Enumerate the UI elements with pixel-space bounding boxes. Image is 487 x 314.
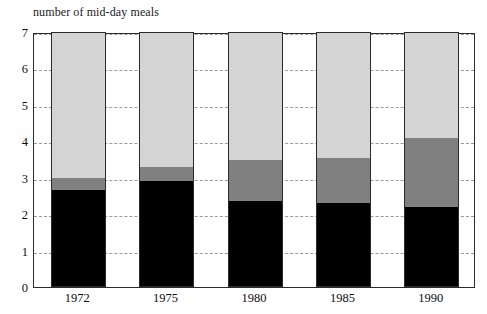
x-tick-label-1980: 1980: [242, 291, 267, 306]
plot-area: [33, 33, 475, 288]
y-tick-label-2: 2: [4, 208, 28, 223]
x-axis: 19721975198019851990: [33, 290, 475, 312]
bar-segment-1980-light-gray-segment[interactable]: [228, 32, 283, 160]
bar-segment-1990-black-segment[interactable]: [404, 207, 459, 287]
y-tick-label-1: 1: [4, 244, 28, 259]
bar-segment-1975-light-gray-segment[interactable]: [139, 32, 194, 167]
y-tick-label-4: 4: [4, 135, 28, 150]
bar-chart: number of mid-day meals 01234567 1972197…: [0, 0, 487, 314]
bar-segment-1985-black-segment[interactable]: [316, 203, 371, 287]
bar-segment-1980-black-segment[interactable]: [228, 201, 283, 287]
bar-segment-1990-gray-segment[interactable]: [404, 138, 459, 207]
x-tick-label-1985: 1985: [330, 291, 355, 306]
chart-title: number of mid-day meals: [33, 5, 159, 20]
bar-segment-1980-gray-segment[interactable]: [228, 160, 283, 202]
y-tick-label-0: 0: [4, 281, 28, 296]
y-tick-label-7: 7: [4, 26, 28, 41]
y-tick-label-3: 3: [4, 171, 28, 186]
bar-segment-1985-light-gray-segment[interactable]: [316, 32, 371, 158]
y-tick-label-6: 6: [4, 62, 28, 77]
bar-segment-1972-black-segment[interactable]: [51, 190, 106, 287]
bar-segment-1985-gray-segment[interactable]: [316, 158, 371, 204]
bar-segment-1972-light-gray-segment[interactable]: [51, 32, 106, 178]
bar-group-1990[interactable]: [404, 32, 459, 287]
y-axis: 01234567: [0, 33, 28, 288]
bar-group-1972[interactable]: [51, 32, 106, 287]
bar-segment-1990-light-gray-segment[interactable]: [404, 32, 459, 138]
bar-group-1985[interactable]: [316, 32, 371, 287]
x-tick-label-1975: 1975: [153, 291, 178, 306]
bar-group-1980[interactable]: [228, 32, 283, 287]
bar-group-1975[interactable]: [139, 32, 194, 287]
x-tick-label-1990: 1990: [418, 291, 443, 306]
y-tick-label-5: 5: [4, 98, 28, 113]
x-tick-label-1972: 1972: [65, 291, 90, 306]
bar-segment-1975-black-segment[interactable]: [139, 181, 194, 287]
bar-segment-1972-gray-segment[interactable]: [51, 178, 106, 191]
bar-segment-1975-gray-segment[interactable]: [139, 167, 194, 182]
